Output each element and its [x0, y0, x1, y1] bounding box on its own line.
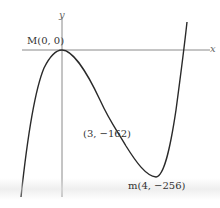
graph-canvas: [0, 0, 220, 208]
x-axis-label: x: [210, 44, 216, 54]
scan-smudge: [0, 178, 220, 200]
inflection-point-label: (3, −162): [83, 129, 131, 139]
function-curve: [21, 22, 187, 197]
min-point-label: m(4, −256): [128, 181, 185, 191]
max-point-label: M(0, 0): [27, 36, 64, 46]
y-axis-label: y: [59, 10, 65, 20]
function-graph: y x M(0, 0) (3, −162) m(4, −256): [0, 0, 220, 208]
